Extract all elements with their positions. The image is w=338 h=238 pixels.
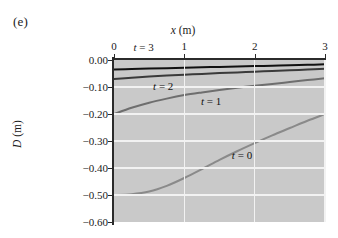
curve-t-2	[114, 69, 325, 79]
label-t0: t = 0	[232, 149, 252, 161]
gridline-horizontal	[114, 140, 325, 142]
y-axis-tick	[108, 60, 114, 61]
y-axis-title: D (m)	[11, 104, 23, 164]
y-axis-tick-label: −0.10	[83, 81, 108, 93]
label-t1-value: = 1	[204, 95, 221, 107]
x-axis-tick-label: 1	[182, 40, 188, 52]
label-t2-value: = 2	[156, 80, 173, 92]
plot-area: t = 3t = 2t = 1t = 0	[114, 60, 325, 222]
x-axis-tick	[184, 54, 185, 60]
curve-t-3	[114, 64, 325, 69]
curve-t-0	[114, 114, 325, 195]
gridline-horizontal	[114, 167, 325, 169]
y-axis-tick	[108, 87, 114, 88]
gridline-horizontal	[114, 194, 325, 196]
y-axis-tick	[108, 222, 114, 223]
x-axis-tick	[255, 54, 256, 60]
x-axis-tick	[325, 54, 326, 60]
figure-panel-e: (e) x (m) D (m) t = 3t = 2t = 1t = 0 012…	[0, 0, 338, 238]
y-axis-title-symbol: D	[11, 140, 23, 148]
y-axis-tick-label: −0.60	[83, 216, 108, 228]
y-axis-tick-label: −0.50	[83, 189, 108, 201]
label-t0-value: = 0	[235, 149, 252, 161]
gridline-horizontal	[114, 113, 325, 115]
x-axis-tick-label: 3	[322, 40, 328, 52]
y-axis-tick-label: −0.40	[83, 162, 108, 174]
y-axis-title-unit: (m)	[11, 120, 23, 137]
y-axis-tick-label: 0.00	[89, 54, 108, 66]
x-axis-title: x (m)	[0, 24, 338, 36]
y-axis-tick	[108, 141, 114, 142]
label-t3: t = 3	[133, 41, 153, 53]
y-axis-tick-label: −0.30	[83, 135, 108, 147]
x-axis-tick-label: 0	[111, 40, 117, 52]
label-t1: t = 1	[201, 95, 221, 107]
gridline-horizontal	[114, 86, 325, 88]
y-axis-tick	[108, 114, 114, 115]
y-axis-tick-labels: 0.00−0.10−0.20−0.30−0.40−0.50−0.60	[58, 0, 108, 238]
y-axis-tick	[108, 195, 114, 196]
label-t3-value: = 3	[136, 41, 153, 53]
x-axis-tick	[114, 54, 115, 60]
y-axis-title-unit-space	[11, 137, 23, 140]
x-axis-tick-label: 2	[252, 40, 258, 52]
x-axis-title-unit: (m)	[179, 24, 196, 36]
y-axis-tick-label: −0.20	[83, 108, 108, 120]
y-axis-tick	[108, 168, 114, 169]
label-t2: t = 2	[153, 80, 173, 92]
